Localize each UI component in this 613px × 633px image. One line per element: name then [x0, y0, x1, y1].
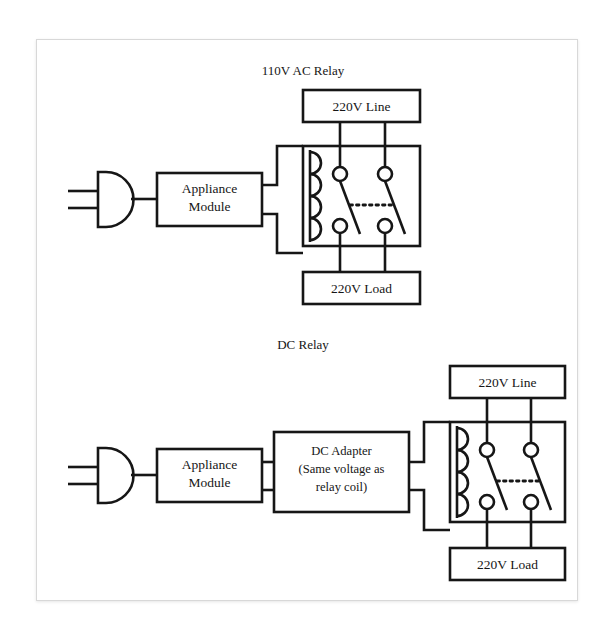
terminal-bottom-left-ac — [333, 219, 347, 233]
load-box-ac: 220V Load — [303, 272, 420, 304]
line-source-box-dc: 220V Line — [450, 366, 565, 398]
terminal-bottom-right-ac — [378, 219, 392, 233]
load-label-dc: 220V Load — [477, 557, 538, 572]
appliance-module-label-line1: Appliance — [182, 181, 237, 196]
plug-icon-ac — [68, 172, 157, 227]
dc-adapter-box: DC Adapter (Same voltage as relay coil) — [274, 432, 409, 512]
appliance-module-label-line2-dc: Module — [189, 475, 231, 490]
circuit-diagram-canvas: 110V AC Relay Appliance Module — [0, 0, 613, 633]
appliance-module-box-dc: Appliance Module — [157, 449, 262, 502]
load-box-dc: 220V Load — [450, 548, 565, 580]
terminal-top-right-ac — [378, 167, 392, 181]
load-label-ac: 220V Load — [331, 281, 392, 296]
dc-adapter-label-line3: relay coil) — [316, 480, 367, 494]
terminal-bottom-left-dc — [480, 495, 494, 509]
relay-coil-feed-bracket-dc — [409, 422, 450, 530]
appliance-module-box-ac: Appliance Module — [157, 173, 262, 226]
terminal-bottom-right-dc — [524, 495, 538, 509]
relay-coil-feed-bracket-ac — [262, 146, 303, 253]
ac-relay-title: 110V AC Relay — [262, 63, 345, 78]
dc-adapter-label-line1: DC Adapter — [311, 444, 372, 458]
appliance-module-label-line2: Module — [189, 199, 231, 214]
terminal-top-left-dc — [480, 443, 494, 457]
appliance-module-label-line1-dc: Appliance — [182, 457, 237, 472]
ac-relay-diagram: 110V AC Relay Appliance Module — [68, 63, 420, 304]
plug-icon-dc — [68, 448, 157, 503]
line-source-label-dc: 220V Line — [479, 375, 537, 390]
line-source-label-ac: 220V Line — [333, 99, 391, 114]
terminal-top-right-dc — [524, 443, 538, 457]
line-source-box-ac: 220V Line — [303, 90, 420, 122]
dc-relay-diagram: DC Relay Appliance Module DC Adapter — [68, 337, 565, 580]
page-root: 110V AC Relay Appliance Module — [0, 0, 613, 633]
dc-adapter-label-line2: (Same voltage as — [298, 462, 384, 476]
dc-relay-title: DC Relay — [277, 337, 329, 352]
terminal-top-left-ac — [333, 167, 347, 181]
